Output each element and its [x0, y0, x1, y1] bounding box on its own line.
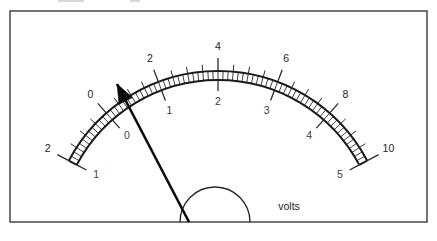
- inner-scale-label: 1: [166, 104, 172, 116]
- inner-scale-label: 0: [124, 129, 130, 141]
- voltmeter-face: 202468101012345 volts: [0, 0, 437, 241]
- voltmeter-panel: 202468101012345 volts: [0, 0, 437, 241]
- inner-scale-label: 3: [264, 104, 270, 116]
- unit-label: volts: [278, 200, 300, 212]
- inner-scale-label: 1: [93, 168, 99, 180]
- outer-scale-label: 8: [343, 88, 349, 100]
- inner-scale-label: 5: [337, 168, 343, 180]
- outer-scale-label: 2: [45, 142, 51, 154]
- scale-group: 202468101012345: [45, 40, 395, 180]
- inner-scale-label: 2: [215, 95, 221, 107]
- outer-scale-label: 0: [88, 88, 94, 100]
- inner-scale-label: 4: [306, 129, 312, 141]
- needle-shaft: [117, 84, 189, 222]
- needle: [117, 84, 189, 222]
- outer-scale-label: 6: [283, 52, 289, 64]
- outer-scale-label: 4: [215, 40, 221, 52]
- outer-scale-label: 10: [383, 142, 395, 154]
- scan-artifacts: [58, 0, 140, 2]
- outer-scale-label: 2: [147, 52, 153, 64]
- pivot-hub: [180, 187, 250, 222]
